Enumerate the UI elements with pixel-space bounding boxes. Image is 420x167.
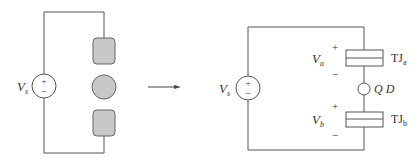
tunnel-junction-b [346, 112, 383, 127]
right-source-label: Vs [219, 81, 230, 98]
vb-plus: + [332, 100, 338, 112]
tja-label: TJa [391, 51, 407, 67]
qd-label: Q D [374, 82, 395, 96]
vb-minus: − [332, 129, 338, 141]
left-source-plus: + [41, 76, 46, 86]
quantum-dot-small [358, 83, 370, 95]
left-source-minus: − [41, 86, 47, 97]
bottom-electrode [93, 110, 115, 136]
circuit-diagram: + − Vs + − Vs + Va − TJa Q D [0, 0, 420, 167]
right-circuit [236, 27, 383, 150]
right-source-minus: − [245, 88, 251, 99]
tunnel-junction-a [346, 50, 383, 66]
tjb-label: TJb [391, 112, 407, 128]
left-source-label: Vs [17, 79, 28, 96]
quantum-dot [92, 75, 116, 99]
transform-arrow-icon [148, 85, 181, 89]
va-plus: + [332, 41, 338, 53]
vb-label: Vb [312, 112, 324, 129]
right-source-plus: + [245, 78, 250, 88]
va-minus: − [332, 68, 338, 80]
va-label: Va [312, 51, 324, 68]
top-electrode [93, 38, 115, 64]
